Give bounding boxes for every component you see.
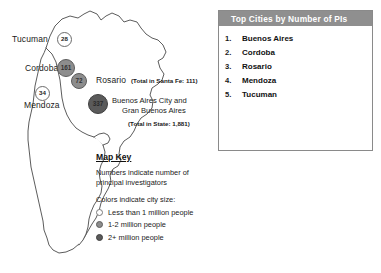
city-name: Cordoba [242, 48, 275, 57]
city-marker-tucuman[interactable]: 28 [57, 32, 72, 47]
map-key-note-line1: Numbers indicate number of [96, 168, 226, 178]
top-cities-panel-title: Top Cities by Number of PIs [231, 14, 347, 24]
list-item[interactable]: 2. Cordoba [219, 45, 372, 59]
city-label-buenos-aires: Buenos Aires City and Gran Buenos Aires [112, 96, 187, 117]
buenos-aires-label-line1: Buenos Aires City and [112, 96, 187, 106]
list-item[interactable]: 5. Tucuman [219, 88, 372, 102]
city-marker-cordoba[interactable]: 161 [57, 59, 75, 77]
map-key-note-line2: principal investigators [96, 178, 226, 188]
buenos-aires-label-line2: Gran Buenos Aires [112, 106, 187, 116]
city-marker-buenos-aires[interactable]: 337 [88, 94, 108, 114]
circle-swatch-icon [96, 221, 103, 228]
list-item[interactable]: 1. Buenos Aires [219, 31, 372, 45]
city-marker-rosario[interactable]: 72 [71, 73, 87, 89]
map-key-item-label: 1-2 million people [108, 220, 166, 229]
city-name: Tucuman [242, 90, 277, 99]
rank-number: 5. [225, 90, 242, 99]
city-label-cordoba: Cordoba [25, 63, 58, 73]
map-key: Map Key Numbers indicate number of princ… [96, 152, 226, 245]
rank-number: 1. [225, 34, 242, 43]
map-key-note: Numbers indicate number of principal inv… [96, 168, 226, 188]
map-key-item-small: Less than 1 million people [96, 208, 226, 217]
map-key-item-label: 2+ million people [108, 233, 164, 242]
city-marker-mendoza[interactable]: 34 [35, 86, 50, 101]
city-label-tucuman: Tucuman [12, 34, 48, 44]
circle-swatch-icon [96, 234, 103, 241]
map-key-item-mid: 1-2 million people [96, 220, 226, 229]
map-figure: Tucuman 28 Cordoba 161 72 Rosario (Total… [0, 0, 381, 273]
top-cities-panel: Top Cities by Number of PIs 1. Buenos Ai… [218, 10, 373, 151]
buenos-aires-state-total: (Total in State: 1,881) [128, 120, 190, 127]
city-name: Buenos Aires [242, 34, 293, 43]
map-key-item-label: Less than 1 million people [108, 208, 193, 217]
map-key-item-large: 2+ million people [96, 233, 226, 242]
rank-number: 3. [225, 62, 242, 71]
city-name: Mendoza [242, 76, 276, 85]
rank-number: 4. [225, 76, 242, 85]
city-label-mendoza: Mendoza [24, 100, 60, 110]
rank-number: 2. [225, 48, 242, 57]
city-name: Rosario [242, 62, 272, 71]
rosario-state-total: (Total in Santa Fe: 111) [131, 77, 198, 84]
circle-swatch-icon [96, 209, 103, 216]
map-key-title: Map Key [96, 152, 226, 162]
map-key-subhead: Colors indicate city size: [96, 195, 226, 204]
top-cities-list: 1. Buenos Aires 2. Cordoba 3. Rosario 4.… [219, 26, 372, 102]
list-item[interactable]: 4. Mendoza [219, 74, 372, 88]
city-label-rosario: Rosario [96, 75, 126, 85]
top-cities-panel-header: Top Cities by Number of PIs [219, 11, 372, 26]
list-item[interactable]: 3. Rosario [219, 59, 372, 73]
